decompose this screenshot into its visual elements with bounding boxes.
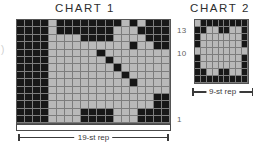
chart-cell	[25, 87, 33, 94]
chart-cell	[146, 87, 154, 94]
chart-cell	[138, 57, 146, 64]
chart-cell	[114, 79, 122, 86]
chart-cell	[57, 116, 65, 123]
chart-cell	[65, 79, 73, 86]
chart-cell	[122, 94, 130, 101]
chart-cell	[114, 116, 122, 123]
chart-cell	[17, 35, 25, 42]
chart-1-block	[16, 19, 171, 124]
chart-cell	[138, 87, 146, 94]
chart-cell	[106, 87, 114, 94]
chart-1-repeat-bracket: 19-st rep	[18, 132, 169, 144]
chart-cell	[154, 64, 162, 71]
chart-cell	[97, 87, 105, 94]
chart-cell	[114, 101, 122, 108]
chart-cell	[57, 42, 65, 49]
chart-cell	[242, 62, 248, 69]
chart-cell	[130, 57, 138, 64]
chart-cell	[114, 94, 122, 101]
chart-cell	[162, 109, 170, 116]
chart-cell	[81, 57, 89, 64]
chart-cell	[122, 64, 130, 71]
chart-cell	[49, 116, 57, 123]
chart-cell	[57, 94, 65, 101]
chart-cell	[89, 42, 97, 49]
chart-cell	[49, 35, 57, 42]
chart-cell	[41, 94, 49, 101]
chart-cell	[138, 72, 146, 79]
chart-2-grid	[194, 19, 249, 84]
chart-cell	[114, 50, 122, 57]
chart-cell	[146, 72, 154, 79]
chart-cell	[25, 27, 33, 34]
chart-cell	[97, 42, 105, 49]
chart-cell	[114, 57, 122, 64]
chart-1-row-label-13: 13	[177, 27, 187, 35]
chart-cell	[41, 109, 49, 116]
chart-cell	[138, 50, 146, 57]
chart-cell	[65, 109, 73, 116]
chart-cell	[25, 57, 33, 64]
chart-cell	[49, 79, 57, 86]
chart-cell	[81, 79, 89, 86]
chart-cell	[106, 64, 114, 71]
chart-cell	[41, 101, 49, 108]
chart-cell	[57, 35, 65, 42]
chart-cell	[73, 35, 81, 42]
chart-2-block	[194, 19, 249, 84]
chart-cell	[17, 116, 25, 123]
chart-cell	[33, 94, 41, 101]
chart-cell	[162, 116, 170, 123]
chart-cell	[114, 109, 122, 116]
chart-cell	[57, 50, 65, 57]
chart-cell	[106, 116, 114, 123]
chart-cell	[17, 94, 25, 101]
chart-cell	[41, 42, 49, 49]
chart-cell	[97, 72, 105, 79]
chart-cell	[49, 87, 57, 94]
chart-2-title: CHART 2	[190, 2, 250, 14]
chart-cell	[106, 20, 114, 27]
chart-cell	[25, 20, 33, 27]
chart-cell	[73, 116, 81, 123]
chart-cell	[57, 101, 65, 108]
chart-cell	[130, 42, 138, 49]
chart-cell	[41, 64, 49, 71]
chart-cell	[146, 109, 154, 116]
chart-cell	[114, 27, 122, 34]
chart-cell	[81, 27, 89, 34]
chart-cell	[130, 109, 138, 116]
chart-cell	[89, 101, 97, 108]
chart-cell	[106, 27, 114, 34]
chart-cell	[146, 116, 154, 123]
chart-cell	[89, 64, 97, 71]
chart-cell	[130, 94, 138, 101]
chart-1-grid	[16, 19, 171, 124]
chart-cell	[106, 42, 114, 49]
chart-cell	[106, 101, 114, 108]
chart-cell	[17, 79, 25, 86]
chart-cell	[41, 72, 49, 79]
chart-cell	[146, 27, 154, 34]
chart-cell	[17, 42, 25, 49]
chart-cell	[97, 57, 105, 64]
chart-cell	[73, 42, 81, 49]
chart-cell	[41, 35, 49, 42]
chart-cell	[138, 35, 146, 42]
chart-cell	[81, 94, 89, 101]
chart-cell	[97, 116, 105, 123]
chart-cell	[57, 20, 65, 27]
chart-cell	[146, 64, 154, 71]
chart-1-row-label-1: 1	[177, 116, 182, 124]
chart-cell	[114, 87, 122, 94]
chart-cell	[89, 79, 97, 86]
chart-cell	[154, 116, 162, 123]
chart-cell	[65, 35, 73, 42]
chart-cell	[73, 57, 81, 64]
chart-cell	[122, 42, 130, 49]
chart-cell	[17, 50, 25, 57]
chart-2-repeat-label: 9-st rep	[206, 86, 239, 97]
chart-cell	[242, 55, 248, 62]
chart-cell	[41, 50, 49, 57]
chart-cell	[49, 109, 57, 116]
